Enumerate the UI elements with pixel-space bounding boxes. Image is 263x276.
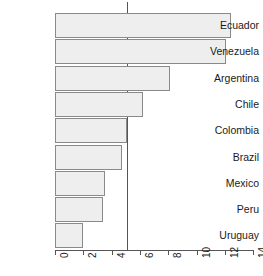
category-label-mexico: Mexico xyxy=(204,171,263,196)
bar-mexico xyxy=(55,171,105,196)
category-label-ecuador: Ecuador xyxy=(204,13,263,38)
category-label-argentina: Argentina xyxy=(204,66,263,91)
x-tick-label-4: 4 xyxy=(117,252,127,258)
bar-rect xyxy=(55,145,122,170)
bar-brazil xyxy=(55,145,122,170)
x-tick-label-8: 8 xyxy=(173,252,183,258)
bar-rect xyxy=(55,223,83,248)
x-tick-label-10: 10 xyxy=(202,247,212,258)
x-tick-label-14: 14 xyxy=(258,247,263,258)
x-tick-label-6: 6 xyxy=(145,252,155,258)
x-tick-4 xyxy=(112,250,113,255)
bar-chile xyxy=(55,92,143,117)
category-label-peru: Peru xyxy=(204,197,263,222)
bar-rect xyxy=(55,197,103,222)
category-label-venezuela: Venezuela xyxy=(204,39,263,64)
bar-rect xyxy=(55,118,127,143)
x-tick-14 xyxy=(253,250,254,255)
bar-rect xyxy=(55,66,170,91)
category-label-uruguay: Uruguay xyxy=(204,223,263,248)
x-tick-10 xyxy=(197,250,198,255)
x-tick-2 xyxy=(83,250,84,255)
x-tick-12 xyxy=(225,250,226,255)
x-tick-label-0: 0 xyxy=(60,252,70,258)
category-label-chile: Chile xyxy=(204,92,263,117)
x-tick-8 xyxy=(168,250,169,255)
x-tick-label-2: 2 xyxy=(88,252,98,258)
x-axis-line xyxy=(55,250,253,251)
plot-area: EcuadorVenezuelaArgentinaChileColombiaBr… xyxy=(0,0,263,276)
bar-chart: EcuadorVenezuelaArgentinaChileColombiaBr… xyxy=(0,0,263,276)
bar-venezuela xyxy=(55,39,226,64)
bar-uruguay xyxy=(55,223,83,248)
x-tick-label-12: 12 xyxy=(230,247,240,258)
category-label-brazil: Brazil xyxy=(204,145,263,170)
bar-peru xyxy=(55,197,103,222)
bar-rect xyxy=(55,92,143,117)
x-tick-6 xyxy=(140,250,141,255)
category-label-colombia: Colombia xyxy=(204,118,263,143)
bar-argentina xyxy=(55,66,170,91)
bar-rect xyxy=(55,171,105,196)
bar-colombia xyxy=(55,118,127,143)
bar-rect xyxy=(55,39,226,64)
x-tick-0 xyxy=(55,250,56,255)
